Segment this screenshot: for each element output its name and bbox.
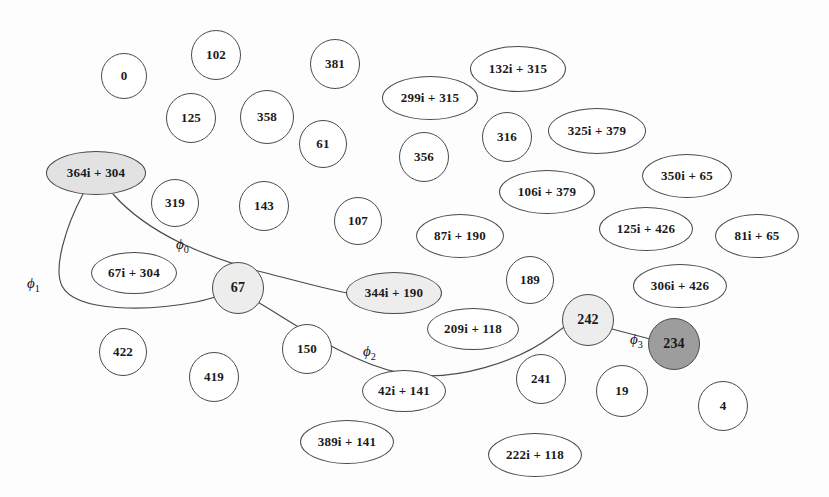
graph-node-n106[interactable]: 106i + 379 [499, 170, 595, 214]
graph-node-n358[interactable]: 358 [240, 90, 294, 144]
phi-glyph: ϕ [176, 236, 184, 252]
edge-label-e1: ϕ1 [27, 275, 40, 294]
phi-subscript: 0 [184, 244, 189, 255]
graph-node-n67i[interactable]: 67i + 304 [91, 252, 177, 294]
edge-label-e3: ϕ3 [630, 331, 643, 350]
graph-node-n61[interactable]: 61 [299, 120, 347, 168]
graph-node-n132[interactable]: 132i + 315 [470, 46, 566, 92]
graph-node-n344[interactable]: 344i + 190 [346, 272, 442, 314]
graph-node-n19[interactable]: 19 [596, 365, 648, 417]
graph-node-n241[interactable]: 241 [516, 354, 566, 404]
graph-node-n306[interactable]: 306i + 426 [633, 264, 727, 308]
graph-node-n222[interactable]: 222i + 118 [488, 433, 582, 477]
graph-node-n4[interactable]: 4 [698, 381, 748, 431]
graph-node-n299[interactable]: 299i + 315 [382, 76, 478, 120]
graph-node-n350[interactable]: 350i + 65 [642, 154, 732, 198]
phi-subscript: 2 [371, 351, 376, 362]
graph-node-n125a[interactable]: 125 [166, 93, 216, 143]
graph-node-n325[interactable]: 325i + 379 [548, 108, 646, 154]
graph-node-n189[interactable]: 189 [506, 256, 554, 304]
graph-node-n364[interactable]: 364i + 304 [46, 151, 146, 195]
phi-glyph: ϕ [27, 275, 35, 291]
graph-node-n150[interactable]: 150 [282, 324, 332, 374]
isogeny-graph-canvas: 0102381132i + 315299i + 3151253586131632… [0, 0, 829, 497]
phi-glyph: ϕ [363, 343, 371, 359]
graph-node-n107[interactable]: 107 [334, 197, 382, 245]
graph-node-n209[interactable]: 209i + 118 [427, 308, 519, 350]
graph-node-n102[interactable]: 102 [191, 30, 241, 80]
graph-node-n87[interactable]: 87i + 190 [416, 214, 504, 258]
graph-node-n381[interactable]: 381 [310, 39, 360, 89]
graph-node-n125b[interactable]: 125i + 426 [599, 207, 693, 251]
graph-node-n81[interactable]: 81i + 65 [715, 214, 799, 258]
phi-subscript: 1 [35, 283, 40, 294]
graph-node-n0[interactable]: 0 [101, 53, 147, 99]
graph-node-n67[interactable]: 67 [212, 262, 264, 314]
graph-node-n419[interactable]: 419 [189, 352, 239, 402]
graph-node-n42[interactable]: 42i + 141 [362, 370, 446, 412]
graph-node-n242[interactable]: 242 [562, 294, 614, 346]
phi-subscript: 3 [638, 339, 643, 350]
phi-glyph: ϕ [630, 331, 638, 347]
graph-node-n389[interactable]: 389i + 141 [300, 420, 394, 464]
graph-node-n316[interactable]: 316 [482, 112, 532, 162]
graph-node-n422[interactable]: 422 [99, 328, 147, 376]
edge-label-e0: ϕ0 [176, 236, 189, 255]
graph-node-n319[interactable]: 319 [151, 179, 199, 227]
graph-node-n234[interactable]: 234 [648, 318, 700, 370]
graph-node-n356[interactable]: 356 [399, 132, 449, 182]
graph-node-n143[interactable]: 143 [239, 181, 289, 231]
edge-label-e2: ϕ2 [363, 343, 376, 362]
